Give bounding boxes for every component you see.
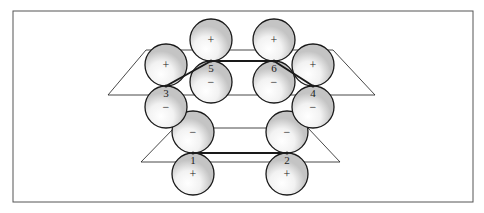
minus-sign: −: [163, 100, 170, 114]
minus-sign: −: [190, 125, 197, 139]
minus-sign: −: [271, 75, 278, 89]
plus-sign: +: [284, 167, 291, 181]
plus-sign: +: [208, 33, 215, 47]
minus-sign: −: [310, 100, 317, 114]
atom-label-6: 6: [271, 62, 277, 74]
atom-label-2: 2: [284, 154, 290, 166]
minus-sign: −: [208, 75, 215, 89]
plus-sign: +: [310, 58, 317, 72]
lower-plane: [141, 128, 340, 162]
atom-label-5: 5: [208, 62, 214, 74]
plus-sign: +: [163, 58, 170, 72]
atom-label-3: 3: [163, 87, 169, 99]
diagram-frame: [13, 11, 473, 202]
minus-sign: −: [284, 125, 291, 139]
plus-sign: +: [190, 167, 197, 181]
orbital-diagram: −+−++−+−+−+− 123456: [0, 0, 484, 213]
plus-sign: +: [271, 33, 278, 47]
atom-label-4: 4: [310, 87, 316, 99]
atom-label-1: 1: [190, 154, 196, 166]
orbital-lobes: −+−++−+−+−+−: [145, 19, 334, 195]
